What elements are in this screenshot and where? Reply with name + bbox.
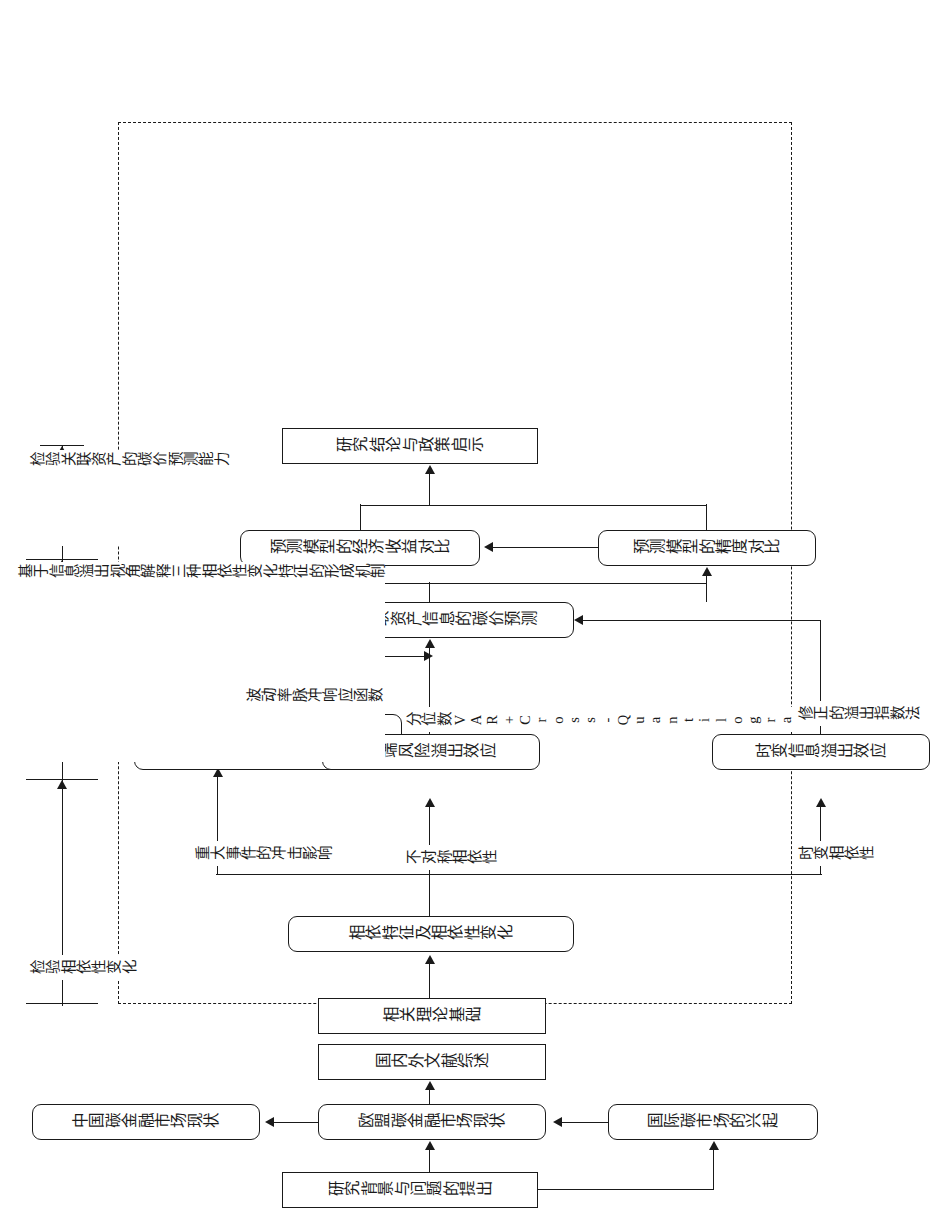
edge-label-asymmetric: 不对称相依性 xyxy=(406,845,498,870)
node-forecast-accuracy-comparison[interactable]: 预测模型的精度对比 xyxy=(598,530,816,566)
edge-collector-to-conclusion xyxy=(429,472,430,506)
edge-intl-to-eu xyxy=(560,1122,608,1123)
edge-eu-to-cn-arrow xyxy=(265,1117,274,1127)
edge-label-spillover-index: 修正的溢出指数法 xyxy=(798,701,920,726)
node-international-carbon-market[interactable]: 国际碳市场的兴起 xyxy=(608,1104,818,1140)
edge-intl-to-eu-arrow xyxy=(553,1117,562,1127)
edge-tv-to-forecast-v xyxy=(582,620,820,621)
edge-theory-to-dependence-arrow xyxy=(425,955,435,964)
objective-label-3: 检验关联资产的碳价预测能力 xyxy=(30,450,229,546)
edge-forecast-to-stub xyxy=(429,582,430,602)
node-theory-basis[interactable]: 相关理论基础 xyxy=(318,998,546,1034)
edge-label-major-event: 重大事件的冲击影响 xyxy=(195,841,333,866)
node-conclusion-policy[interactable]: 研究结论与政策启示 xyxy=(282,428,538,464)
edge-branch-asymmetric-arrow xyxy=(425,798,435,807)
edge-intro-to-eu-arrow xyxy=(425,1141,435,1150)
edge-intro-to-eu xyxy=(429,1149,430,1172)
edge-intro-to-intl-v xyxy=(538,1189,714,1190)
edge-forecast-to-accuracy-v xyxy=(430,583,707,584)
edge-theory-to-dependence xyxy=(429,962,430,998)
node-forecast-economic-benefit-comparison[interactable]: 预测模型的经济收益对比 xyxy=(240,530,480,566)
edge-forecast-to-accuracy-arrow xyxy=(702,567,712,576)
node-dependence-features[interactable]: 相依特征及相依性变化 xyxy=(288,916,574,952)
objective-arrow-1 xyxy=(57,780,67,789)
edge-collector-to-conclusion-arrow xyxy=(425,465,435,474)
node-eu-carbon-finance-market[interactable]: 欧盟碳金融市场现状 xyxy=(318,1104,546,1140)
objective-tick-1 xyxy=(26,1003,98,1004)
node-china-carbon-finance-market[interactable]: 中国碳金融市场现状 xyxy=(32,1104,260,1140)
edge-branch-time-varying-arrow xyxy=(816,798,826,807)
edge-intro-to-intl-h xyxy=(713,1148,714,1190)
edge-economic-to-collector xyxy=(360,504,361,530)
edge-label-time-varying: 时变相依性 xyxy=(798,841,875,866)
objective-label-2: 基于信息溢出视角解释三种相依性变化特征的形成机制 xyxy=(18,562,385,762)
edge-eu-to-cn xyxy=(272,1122,318,1123)
edge-label-vol-irf: 波动率脉冲响应函数 xyxy=(246,683,384,708)
edge-intro-to-intl-arrow xyxy=(709,1141,719,1150)
edge-accuracy-to-economic-arrow xyxy=(484,542,493,552)
node-time-varying-information-spillover[interactable]: 时变信息溢出效应 xyxy=(712,734,930,770)
edge-dependence-out xyxy=(429,874,430,916)
objective-label-1: 检验相依性变化 xyxy=(30,955,137,980)
edge-accuracy-to-economic xyxy=(492,547,598,548)
edge-eu-to-literature-arrow xyxy=(425,1081,435,1090)
edge-forecast-to-accuracy-h xyxy=(706,574,707,602)
edge-eu-to-literature xyxy=(429,1089,430,1104)
node-intro[interactable]: 研究背景与问题的提出 xyxy=(282,1172,538,1208)
edge-extreme-to-forecast-arrow xyxy=(425,639,435,648)
node-literature-review[interactable]: 国内外文献综述 xyxy=(318,1044,546,1080)
edge-dependence-fan xyxy=(216,874,822,875)
edge-event-to-forecast-arrow xyxy=(424,651,433,661)
edge-tv-to-forecast-arrow xyxy=(574,615,583,625)
edge-comparison-collector-v xyxy=(360,505,706,506)
edge-label-qvar-cq: 分位数VAR+Cross-Quantilogram xyxy=(406,707,811,732)
edge-accuracy-to-collector xyxy=(706,504,707,530)
